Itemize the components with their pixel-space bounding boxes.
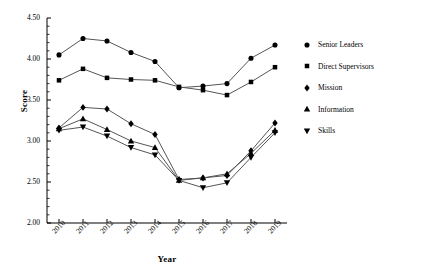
triangle-up-marker-icon <box>300 102 314 116</box>
circle-marker-icon <box>300 38 314 52</box>
y-tick-label: 4.00 <box>10 54 40 63</box>
series-mission <box>56 104 277 183</box>
legend-label: Skills <box>318 126 335 135</box>
y-tick-label: 2.50 <box>10 177 40 186</box>
diamond-marker-icon <box>300 81 314 95</box>
triangle-down-marker-icon <box>300 124 314 138</box>
x-axis-title: Year <box>47 254 287 264</box>
legend-item-information[interactable]: Information <box>300 99 374 121</box>
legend-item-direct-supervisors[interactable]: Direct Supervisors <box>300 56 374 78</box>
legend-label: Mission <box>318 83 342 92</box>
legend-item-senior-leaders[interactable]: Senior Leaders <box>300 34 374 56</box>
legend: Senior LeadersDirect SupervisorsMissionI… <box>300 34 374 142</box>
legend-label: Direct Supervisors <box>318 62 374 71</box>
line-chart: Score Year 2.002.503.003.504.004.50 2010… <box>0 0 423 272</box>
y-tick-label: 3.00 <box>10 136 40 145</box>
series-information <box>56 116 278 183</box>
legend-item-skills[interactable]: Skills <box>300 120 374 142</box>
series-senior-leaders <box>56 36 277 90</box>
legend-item-mission[interactable]: Mission <box>300 77 374 99</box>
y-tick-label: 3.50 <box>10 95 40 104</box>
series-direct-supervisors <box>57 65 278 97</box>
legend-label: Information <box>318 105 354 114</box>
y-tick-label: 2.00 <box>10 218 40 227</box>
y-tick-label: 4.50 <box>10 13 40 22</box>
legend-label: Senior Leaders <box>318 40 363 49</box>
square-marker-icon <box>300 59 314 73</box>
